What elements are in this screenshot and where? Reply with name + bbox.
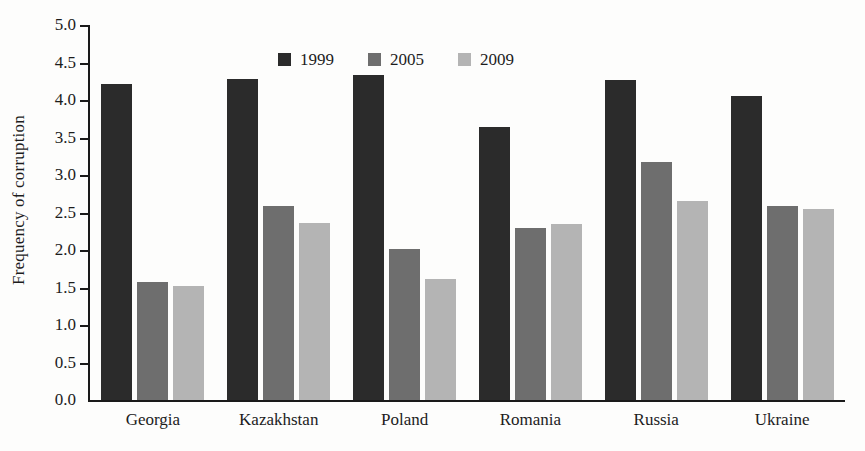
x-axis-label-russia: Russia xyxy=(593,410,719,430)
x-axis-label-romania: Romania xyxy=(467,410,593,430)
bar-russia-1999[interactable] xyxy=(605,80,636,400)
y-axis-tick-label: 4.0 xyxy=(55,90,76,110)
y-axis-tick-mark xyxy=(80,250,88,252)
x-axis-category-labels: GeorgiaKazakhstanPolandRomaniaRussiaUkra… xyxy=(90,410,845,430)
bar-group-russia xyxy=(593,25,719,400)
legend-entry-2005[interactable]: 2005 xyxy=(368,51,424,68)
y-axis-tick-mark xyxy=(80,25,88,27)
bar-ukraine-2009[interactable] xyxy=(803,209,834,400)
bar-group-ukraine xyxy=(719,25,845,400)
y-axis-tick-label: 1.5 xyxy=(55,278,76,298)
y-axis-tick-label: 2.0 xyxy=(55,240,76,260)
x-axis-label-poland: Poland xyxy=(342,410,468,430)
bar-group-romania xyxy=(467,25,593,400)
legend-label: 2009 xyxy=(480,51,514,68)
y-axis-tick-label: 0.5 xyxy=(55,353,76,373)
bar-poland-2005[interactable] xyxy=(389,249,420,401)
bar-georgia-2005[interactable] xyxy=(137,282,168,400)
x-axis-label-georgia: Georgia xyxy=(90,410,216,430)
plot-area: 5.04.54.03.53.02.52.01.51.00.50.0 199920… xyxy=(88,25,845,400)
y-axis-tick-mark xyxy=(80,100,88,102)
y-axis-tick-label: 0.0 xyxy=(55,390,76,410)
x-axis-label-ukraine: Ukraine xyxy=(719,410,845,430)
legend-entry-2009[interactable]: 2009 xyxy=(458,51,514,68)
y-axis-tick-label: 4.5 xyxy=(55,53,76,73)
bar-russia-2005[interactable] xyxy=(641,162,672,401)
y-axis-tick-mark xyxy=(80,138,88,140)
y-axis-tick-label: 2.5 xyxy=(55,203,76,223)
bar-kazakhstan-2005[interactable] xyxy=(263,206,294,400)
y-axis-title-text: Frequency of corruption xyxy=(9,115,29,285)
bar-romania-2005[interactable] xyxy=(515,228,546,400)
y-axis-tick-label: 3.5 xyxy=(55,128,76,148)
y-axis-tick-mark xyxy=(80,213,88,215)
bar-ukraine-1999[interactable] xyxy=(731,96,762,400)
bar-kazakhstan-2009[interactable] xyxy=(299,223,330,400)
legend-swatch-icon xyxy=(278,53,291,66)
bars-layer xyxy=(90,25,845,400)
bar-poland-1999[interactable] xyxy=(353,75,384,400)
y-axis-tick-label: 3.0 xyxy=(55,165,76,185)
bar-poland-2009[interactable] xyxy=(425,279,456,401)
bar-georgia-1999[interactable] xyxy=(101,84,132,400)
bar-kazakhstan-1999[interactable] xyxy=(227,79,258,400)
x-axis-label-kazakhstan: Kazakhstan xyxy=(216,410,342,430)
bar-group-poland xyxy=(342,25,468,400)
bar-russia-2009[interactable] xyxy=(677,201,708,401)
bar-chart: Frequency of corruption 5.04.54.03.53.02… xyxy=(0,0,865,451)
bar-group-kazakhstan xyxy=(216,25,342,400)
chart-legend: 199920052009 xyxy=(278,51,514,68)
y-axis-tick-mark xyxy=(80,63,88,65)
y-axis-tick-label: 5.0 xyxy=(55,15,76,35)
legend-swatch-icon xyxy=(458,53,471,66)
bar-romania-1999[interactable] xyxy=(479,127,510,400)
legend-entry-1999[interactable]: 1999 xyxy=(278,51,334,68)
legend-label: 1999 xyxy=(300,51,334,68)
bar-ukraine-2005[interactable] xyxy=(767,206,798,400)
y-axis-title: Frequency of corruption xyxy=(2,0,36,400)
bar-georgia-2009[interactable] xyxy=(173,286,204,400)
y-axis-tick-mark xyxy=(80,325,88,327)
y-axis-tick-label: 1.0 xyxy=(55,315,76,335)
bar-romania-2009[interactable] xyxy=(551,224,582,400)
legend-label: 2005 xyxy=(390,51,424,68)
x-axis-line xyxy=(88,400,845,402)
legend-swatch-icon xyxy=(368,53,381,66)
y-axis-tick-mark xyxy=(80,288,88,290)
y-axis-tick-mark xyxy=(80,175,88,177)
y-axis-tick-mark xyxy=(80,363,88,365)
bar-group-georgia xyxy=(90,25,216,400)
